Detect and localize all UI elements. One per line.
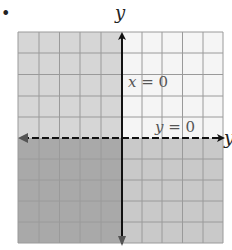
region-lower-left	[18, 138, 122, 243]
region-upper-left	[18, 32, 122, 138]
line-label-y-equals-0: y = 0	[155, 118, 195, 136]
x-axis-label: y	[224, 127, 232, 148]
line-label-x-equals-0: x = 0	[128, 73, 168, 91]
coordinate-plane	[0, 0, 232, 250]
region-lower-right	[122, 138, 223, 243]
